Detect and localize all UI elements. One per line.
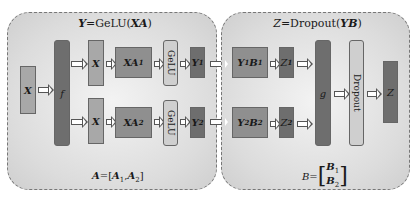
branch2-gelu-box: GeLU: [163, 100, 178, 146]
branch1-y-box: Y1: [190, 47, 205, 78]
b-definition: B= [ B1 B2 ]: [302, 162, 348, 190]
merge-g-box: g: [315, 40, 331, 146]
arrow-icon: [106, 61, 111, 67]
dropout-panel-title: Z=Dropout(YB): [270, 17, 365, 30]
arrow-icon: [270, 61, 275, 67]
arrow-icon: [334, 91, 344, 97]
output-z-box: Z: [383, 61, 398, 123]
a-definition: A=[A1,A2]: [92, 170, 144, 184]
arrow-icon: [71, 119, 82, 125]
branch2-z-box: Z2: [279, 107, 294, 138]
branch2-yb-box: Y2B2: [232, 107, 268, 138]
arrow-icon: [180, 119, 185, 125]
branch2-x-box: X: [88, 98, 104, 144]
arrow-icon: [297, 61, 307, 67]
arrow-icon: [71, 61, 82, 67]
dropout-box: Dropout: [349, 40, 364, 146]
arrow-icon: [154, 119, 159, 125]
gelu-panel: [7, 12, 217, 190]
arrow-icon: [297, 121, 307, 127]
arrow-icon: [106, 119, 111, 125]
branch2-xa-box: XA2: [115, 107, 152, 138]
input-x-box: X: [20, 66, 36, 114]
arrow-icon: [270, 121, 275, 127]
branch1-yb-box: Y1B1: [232, 47, 268, 78]
arrow-icon: [154, 61, 159, 67]
branch1-z-box: Z1: [279, 47, 294, 78]
arrow-icon: [180, 61, 185, 67]
gelu-panel-title: Y=GeLU(XA): [70, 17, 160, 30]
branch2-y-box: Y2: [190, 107, 205, 138]
arrow-icon: [38, 87, 48, 93]
arrow-icon: [367, 91, 376, 97]
branch1-x-box: X: [88, 40, 104, 86]
branch1-gelu-box: GeLU: [163, 40, 178, 86]
split-f-box: f: [54, 40, 70, 146]
branch1-xa-box: XA1: [115, 47, 152, 78]
